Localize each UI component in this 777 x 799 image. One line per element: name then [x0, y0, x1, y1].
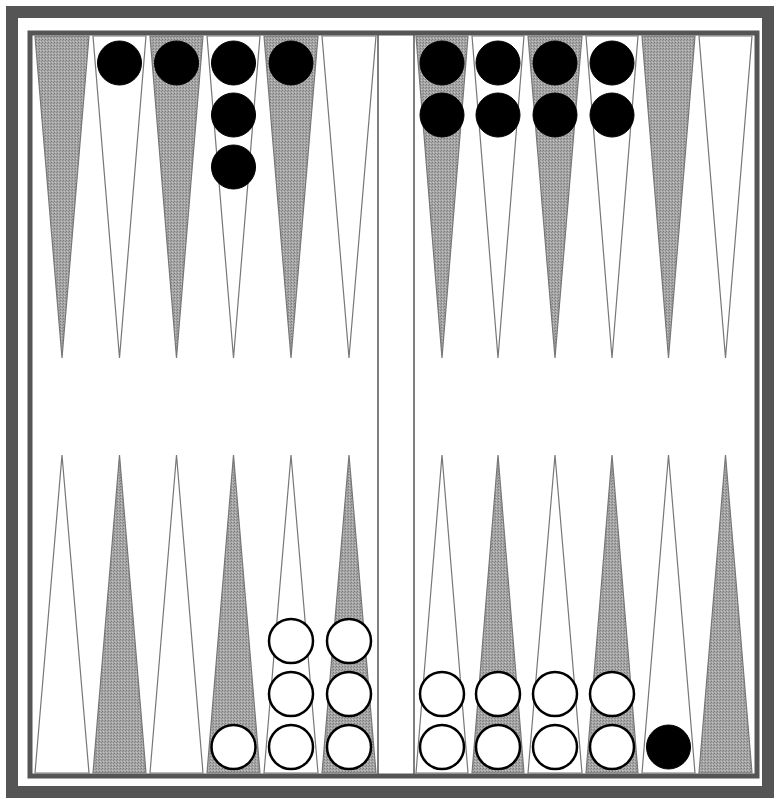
white-checker[interactable]	[420, 672, 464, 716]
black-checker[interactable]	[98, 41, 142, 85]
black-checker[interactable]	[533, 93, 577, 137]
white-checker[interactable]	[476, 725, 520, 769]
black-checker[interactable]	[476, 93, 520, 137]
backgammon-board	[0, 0, 777, 799]
white-checker[interactable]	[327, 672, 371, 716]
white-checker[interactable]	[269, 672, 313, 716]
black-checker[interactable]	[420, 93, 464, 137]
black-checker[interactable]	[590, 41, 634, 85]
black-checker[interactable]	[212, 145, 256, 189]
black-checker[interactable]	[212, 41, 256, 85]
black-checker[interactable]	[590, 93, 634, 137]
white-checker[interactable]	[420, 725, 464, 769]
inner-frame	[30, 33, 757, 776]
white-checker[interactable]	[327, 619, 371, 663]
white-checker[interactable]	[476, 672, 520, 716]
white-checker[interactable]	[590, 725, 634, 769]
white-checker[interactable]	[590, 672, 634, 716]
white-checker[interactable]	[269, 725, 313, 769]
white-checker[interactable]	[327, 725, 371, 769]
black-checker[interactable]	[155, 41, 199, 85]
black-checker[interactable]	[476, 41, 520, 85]
white-checker[interactable]	[269, 619, 313, 663]
black-checker[interactable]	[533, 41, 577, 85]
white-checker[interactable]	[212, 725, 256, 769]
white-checker[interactable]	[533, 725, 577, 769]
black-checker[interactable]	[647, 725, 691, 769]
black-checker[interactable]	[212, 93, 256, 137]
black-checker[interactable]	[269, 41, 313, 85]
white-checker[interactable]	[533, 672, 577, 716]
black-checker[interactable]	[420, 41, 464, 85]
